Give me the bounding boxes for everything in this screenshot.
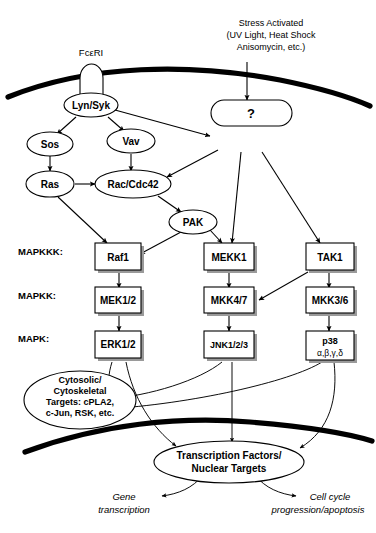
node-raf1[interactable]: Raf1 — [95, 243, 144, 273]
cytosolic-line-3: Targets: cPLA2, — [46, 397, 114, 407]
node-pak[interactable]: PAK — [169, 210, 217, 234]
node-mkk36-label: MKK3/6 — [312, 295, 349, 306]
edge-unknown-to-tak1 — [262, 152, 320, 243]
node-vav-label: Vav — [122, 136, 140, 147]
row-label-mapk: MAPK: — [18, 333, 49, 344]
pathway-diagram: Stress Activated (UV Light, Heat Shock A… — [0, 0, 376, 533]
row-label-mapkkk: MAPKKK: — [18, 246, 63, 257]
cellcycle-line-2: progression/apoptosis — [271, 504, 365, 515]
node-mek12-label: MEK1/2 — [100, 295, 137, 306]
node-mkk47[interactable]: MKK4/7 — [204, 287, 257, 316]
plasma-membrane-upper — [8, 69, 370, 106]
edge-unknown-to-rac — [167, 150, 218, 177]
node-lyn-syk[interactable]: Lyn/Syk — [64, 93, 118, 117]
gene-line-2: transcription — [98, 504, 150, 515]
node-sos-label: Sos — [41, 139, 60, 150]
stimulus-line-3: Anisomycin, etc.) — [237, 42, 306, 52]
outcome-gene-transcription: Gene transcription — [98, 491, 150, 515]
node-mek12[interactable]: MEK1/2 — [95, 287, 144, 316]
node-tak1-label: TAK1 — [317, 252, 343, 263]
edge-tak1-to-mkk47 — [259, 272, 308, 300]
node-ras[interactable]: Ras — [26, 171, 74, 197]
edge-unknown-to-mekk1 — [232, 152, 241, 243]
edge-lynsyk-to-sos — [57, 117, 76, 134]
cytosolic-line-1: Cytosolic/ — [58, 375, 102, 385]
cytosolic-line-4: c-Jun, RSK, etc. — [46, 408, 115, 418]
node-pak-label: PAK — [183, 217, 204, 228]
node-mekk1-label: MEKK1 — [211, 252, 246, 263]
edge-lynsyk-to-vav — [108, 117, 124, 131]
edge-rac-to-pak — [158, 196, 181, 212]
transcription-line-1: Transcription Factors/ — [176, 450, 281, 461]
node-unknown[interactable]: ? — [211, 100, 292, 126]
node-cytosolic-targets[interactable]: Cytosolic/ Cytoskeletal Targets: cPLA2, … — [24, 371, 136, 429]
node-unknown-label: ? — [247, 106, 255, 121]
edge-p38-to-transcription — [300, 362, 335, 448]
edge-ras-to-raf1 — [58, 197, 107, 243]
transcription-line-2: Nuclear Targets — [192, 463, 267, 474]
cellcycle-line-1: Cell cycle — [310, 491, 351, 502]
node-mkk47-label: MKK4/7 — [211, 295, 248, 306]
node-mkk36[interactable]: MKK3/6 — [306, 287, 357, 316]
node-mekk1[interactable]: MEKK1 — [204, 243, 257, 273]
diagram-canvas: Stress Activated (UV Light, Heat Shock A… — [0, 0, 376, 533]
node-p38-isoforms-label: α,β,γ,δ — [317, 348, 343, 358]
stimulus-line-1: Stress Activated — [239, 18, 304, 28]
gene-line-1: Gene — [112, 491, 135, 502]
row-label-mapkk: MAPKK: — [18, 290, 56, 301]
node-jnk123-label: JNK1/2/3 — [210, 340, 248, 350]
receptor-label: FcεRI — [79, 47, 103, 58]
node-erk12[interactable]: ERK1/2 — [95, 331, 144, 361]
edge-pak-to-mekk1 — [210, 230, 222, 243]
node-sos[interactable]: Sos — [27, 132, 73, 156]
node-raf1-label: Raf1 — [107, 252, 129, 263]
node-rac-cdc42-label: Rac/Cdc42 — [107, 179, 159, 190]
node-vav[interactable]: Vav — [107, 129, 155, 153]
outcome-cell-cycle: Cell cycle progression/apoptosis — [271, 491, 365, 515]
node-lyn-syk-label: Lyn/Syk — [72, 100, 110, 111]
stimulus-label: Stress Activated (UV Light, Heat Shock A… — [226, 18, 316, 52]
edge-pak-to-raf1 — [140, 232, 181, 254]
node-transcription-factors[interactable]: Transcription Factors/ Nuclear Targets — [154, 441, 304, 483]
cytosolic-line-2: Cytoskeletal — [53, 386, 106, 396]
node-tak1[interactable]: TAK1 — [306, 243, 357, 273]
node-jnk123[interactable]: JNK1/2/3 — [204, 331, 257, 361]
node-p38[interactable]: p38 α,β,γ,δ — [306, 331, 357, 363]
node-ras-label: Ras — [41, 179, 60, 190]
node-erk12-label: ERK1/2 — [100, 339, 135, 350]
stimulus-line-2: (UV Light, Heat Shock — [226, 30, 316, 40]
node-rac-cdc42[interactable]: Rac/Cdc42 — [95, 170, 171, 198]
node-p38-label: p38 — [322, 336, 338, 346]
